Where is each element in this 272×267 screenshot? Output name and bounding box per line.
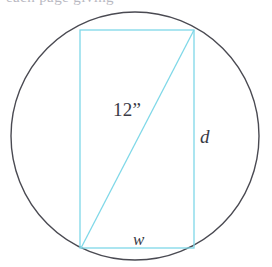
figure-canvas xyxy=(0,0,272,267)
circumscribed-circle xyxy=(11,12,259,260)
geometry-figure: each page giving 12” d w xyxy=(0,0,272,267)
rectangle-diagonal xyxy=(81,30,194,248)
